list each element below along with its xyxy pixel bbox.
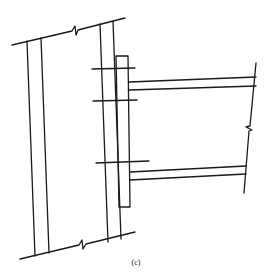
column-line-1 <box>41 38 49 253</box>
beam-end-break-line <box>244 63 256 193</box>
beam-top-flange-line-0 <box>129 77 256 82</box>
bolt-1 <box>93 100 137 101</box>
column <box>12 18 135 259</box>
column-bottom-break-line <box>20 232 135 259</box>
column-line-0 <box>27 41 35 256</box>
beam-top-flange-line-1 <box>129 86 256 90</box>
connection-diagram: (c) <box>0 0 272 278</box>
beam-bottom-flange-line-0 <box>130 166 246 172</box>
end-plate <box>116 56 130 207</box>
bolts <box>92 68 149 163</box>
beam-bottom-flange-line-1 <box>130 174 246 180</box>
bolt-2 <box>96 161 149 163</box>
beam <box>129 63 256 193</box>
figure-caption: (c) <box>0 258 272 267</box>
column-top-break-line <box>12 18 125 45</box>
diagram-canvas <box>0 0 272 278</box>
end-plate-outline <box>116 56 130 207</box>
column-line-2 <box>100 24 108 242</box>
